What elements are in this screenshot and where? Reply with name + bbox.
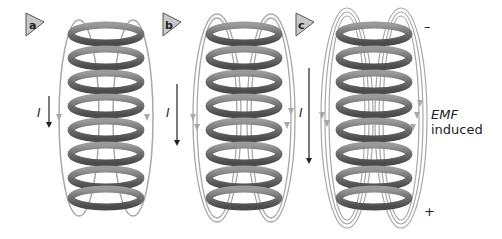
current-arrow-b — [174, 84, 180, 146]
emf-plus-sign: + — [424, 204, 435, 219]
current-label-b: I — [166, 106, 170, 120]
emf-minus-sign: – — [424, 19, 431, 34]
current-label-c: I — [299, 106, 303, 120]
coil-b — [209, 25, 279, 207]
panel-b: b I — [163, 13, 295, 222]
panel-a: a I — [26, 13, 153, 216]
panel-label-c: c — [298, 19, 305, 32]
current-label-a: I — [37, 106, 41, 120]
coil-c — [339, 25, 409, 207]
solenoid-figure: a I b — [0, 0, 502, 239]
coil-a — [71, 25, 141, 207]
current-arrow-c — [306, 68, 312, 164]
panel-label-b: b — [165, 19, 173, 32]
panel-label-a: a — [29, 19, 36, 32]
emf-induced-label: induced — [431, 122, 483, 137]
emf-label: EMF — [431, 107, 458, 122]
current-arrow-a — [46, 96, 52, 128]
panel-c: c I — [296, 8, 427, 228]
